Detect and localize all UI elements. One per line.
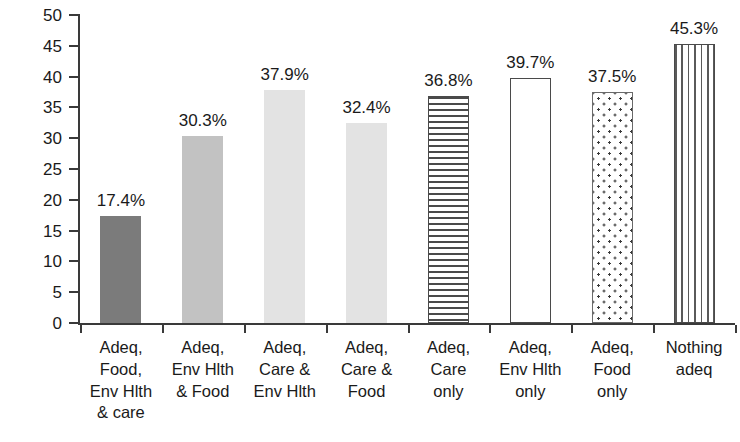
y-axis-tick-label: 15 [18,223,62,240]
x-axis-tick [489,325,491,333]
x-axis-category-label: Adeq, Care & Food [322,337,412,402]
y-axis-tick [69,137,78,139]
bar-value-label: 30.3% [158,112,248,129]
y-axis-tick [69,168,78,170]
bar-value-label: 37.5% [567,68,657,85]
y-axis-tick [69,291,78,293]
x-axis-tick [326,325,328,333]
y-axis-tick [69,76,78,78]
x-axis-tick [244,325,246,333]
x-axis-line [78,323,735,325]
bar-value-label: 39.7% [485,54,575,71]
x-axis-tick [80,325,82,333]
y-axis-tick-label: 20 [18,192,62,209]
y-axis-line [78,14,80,325]
bar [346,123,387,323]
bar [264,90,305,323]
y-axis-tick [69,45,78,47]
bar-value-label: 32.4% [322,99,412,116]
x-axis-tick [408,325,410,333]
y-axis-tick-label: 25 [18,161,62,178]
bar-value-label: 17.4% [76,192,166,209]
y-axis-tick-label: 5 [18,284,62,301]
x-axis-category-label: Adeq, Care & Env Hlth [240,337,330,402]
bar [510,78,551,323]
x-axis-tick [653,325,655,333]
x-axis-tick [162,325,164,333]
bar [100,216,141,323]
bar-value-label: 36.8% [403,72,493,89]
x-axis-category-label: Adeq, Food only [567,337,657,402]
y-axis-tick [69,14,78,16]
x-axis-category-label: Nothing adeq [649,337,739,381]
x-axis-tick [571,325,573,333]
bar [428,96,469,323]
bar [182,136,223,323]
y-axis-tick [69,260,78,262]
bar [592,92,633,323]
x-axis-category-label: Adeq, Care only [403,337,493,402]
bar-value-label: 37.9% [240,66,330,83]
x-axis-category-label: Adeq, Env Hlth only [485,337,575,402]
bar [674,44,715,323]
y-axis-tick [69,322,78,324]
bar-chart: Average stunted 50454035302520151050 17.… [0,0,740,442]
y-axis-tick-label: 0 [18,315,62,332]
x-axis-tick [735,325,737,333]
y-axis-tick [69,230,78,232]
y-axis-tick-label: 35 [18,99,62,116]
x-axis-category-label: Adeq, Food, Env Hlth & care [76,337,166,424]
bar-value-label: 45.3% [649,20,739,37]
x-axis-category-label: Adeq, Env Hlth & Food [158,337,248,402]
y-axis-tick-label: 30 [18,130,62,147]
y-axis-tick-label: 40 [18,69,62,86]
y-axis-tick-label: 50 [18,7,62,24]
y-axis-tick-label: 10 [18,253,62,270]
y-axis-tick [69,106,78,108]
y-axis-tick-label: 45 [18,38,62,55]
